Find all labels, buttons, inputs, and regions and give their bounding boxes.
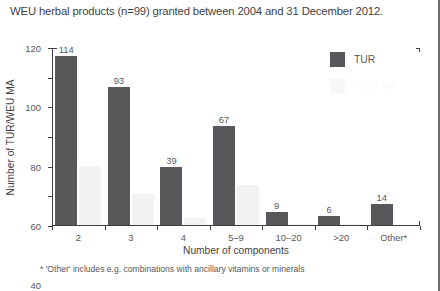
x-tick-mark (105, 226, 106, 230)
bar-value-label: 14 (376, 192, 386, 203)
x-tick-mark (157, 226, 158, 230)
chart-title: WEU herbal products (n=99) granted betwe… (10, 5, 430, 17)
bar-value-label: 114 (59, 44, 74, 55)
bar-tur (371, 204, 393, 225)
bar-weu-ma (132, 194, 154, 225)
x-tick-label: 5–9 (228, 232, 244, 243)
legend-item-tur: TUR (330, 46, 397, 72)
frame-cap-right-top (419, 48, 420, 52)
bar-tur (266, 212, 288, 225)
bar-value-label: 93 (114, 75, 124, 86)
y-tick-label: 120 (25, 43, 41, 54)
x-tick-label: Other* (380, 232, 407, 243)
x-tick-mark (210, 226, 211, 230)
bar-value-label: 39 (166, 155, 176, 166)
bar-tur (160, 167, 182, 225)
bar-value-label: 6 (327, 204, 332, 215)
bar-weu-ma (79, 166, 101, 225)
bar-weu-ma (237, 185, 259, 225)
x-tick-label: 4 (181, 232, 186, 243)
frame-cap-top-left (53, 48, 57, 49)
bar-weu-ma (184, 218, 206, 225)
bar-tur (108, 87, 130, 225)
y-tick-mark: 20 (48, 196, 52, 197)
bar-tur (213, 126, 235, 225)
x-tick-mark (420, 226, 421, 230)
legend-swatch-icon-tur (330, 52, 345, 67)
x-tick-mark (315, 226, 316, 230)
y-tick-label: 100 (25, 102, 41, 113)
bar-value-label: 9 (274, 200, 279, 211)
bar-weu-ma (342, 224, 364, 225)
y-tick-mark: 120 (48, 48, 52, 49)
y-tick-mark: 40 (48, 167, 52, 168)
legend-label-weu-ma: WEU MA (354, 80, 397, 91)
y-tick-mark: 80 (48, 107, 52, 108)
legend-item-weu-ma: WEU MA (330, 72, 397, 98)
x-tick-mark (367, 226, 368, 230)
x-tick-label: 10–20 (276, 232, 302, 243)
y-tick-label: 40 (31, 280, 41, 291)
x-axis-line (52, 225, 420, 226)
y-axis-title: Number of TUR/WEU MA (4, 48, 18, 226)
y-axis-title-text: Number of TUR/WEU MA (6, 79, 17, 195)
x-tick-label: 2 (76, 232, 81, 243)
y-tick-mark: 100 (48, 78, 52, 79)
bar-tur (318, 216, 340, 225)
x-tick-label: 3 (128, 232, 133, 243)
bar-tur (55, 56, 77, 225)
x-axis-title: Number of components (52, 245, 420, 256)
y-axis-line (52, 48, 53, 226)
bar-value-label: 67 (219, 114, 229, 125)
chart-footnote: * 'Other' includes e.g. combinations wit… (40, 264, 305, 274)
y-tick-label: 60 (31, 221, 41, 232)
x-tick-mark (52, 226, 53, 230)
y-tick-label: 80 (31, 161, 41, 172)
x-tick-label: >20 (333, 232, 349, 243)
legend-swatch-icon-weu-ma (330, 78, 345, 93)
x-tick-mark (262, 226, 263, 230)
legend-label-tur: TUR (354, 54, 375, 65)
y-tick-mark: 60 (48, 137, 52, 138)
chart-legend: TUR WEU MA (330, 46, 397, 98)
figure-container: WEU herbal products (n=99) granted betwe… (0, 0, 440, 291)
bar-weu-ma (290, 224, 312, 225)
